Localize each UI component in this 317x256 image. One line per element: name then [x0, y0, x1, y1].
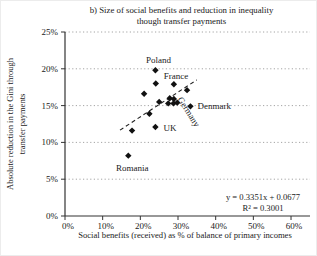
y-axis-title: Absolute reduction in the Gini through t… — [4, 28, 30, 220]
chart-title-line1: b) Size of social benefits and reduction… — [49, 5, 314, 16]
data-point — [146, 110, 152, 116]
y-tick-label: 25% — [42, 27, 59, 37]
r-squared-label: R² = 0.3001 — [209, 203, 317, 214]
data-point — [153, 80, 159, 86]
chart-title: b) Size of social benefits and reduction… — [49, 5, 314, 27]
data-point — [141, 91, 147, 97]
y-axis-title-line1: Absolute reduction in the Gini through — [4, 28, 16, 220]
y-tick-label: 0% — [46, 211, 59, 221]
country-label: UK — [163, 123, 176, 133]
y-tick-label: 10% — [42, 137, 59, 147]
country-label: France — [164, 71, 189, 81]
trendline-annotation: y = 0.3351x + 0.0677 R² = 0.3001 — [209, 192, 317, 214]
y-axis-title-line2: transfer payments — [16, 28, 28, 220]
chart-figure: 0%5%10%15%20%25%0%10%20%30%40%50%60%Pola… — [0, 0, 317, 256]
country-label: Germany — [176, 95, 202, 129]
x-axis-title: Social benefits (received) as % of balan… — [59, 230, 311, 240]
y-tick-label: 15% — [42, 101, 59, 111]
data-point — [129, 127, 135, 133]
data-point — [156, 99, 162, 105]
data-point — [171, 81, 177, 87]
trendline-equation: y = 0.3351x + 0.0677 — [209, 192, 317, 203]
data-point — [152, 124, 158, 130]
scatter-plot: 0%5%10%15%20%25%0%10%20%30%40%50%60%Pola… — [1, 1, 317, 256]
chart-title-line2: though transfer payments — [49, 16, 314, 27]
data-point — [125, 152, 131, 158]
y-tick-label: 5% — [46, 174, 59, 184]
country-label: Denmark — [197, 101, 231, 111]
y-tick-label: 20% — [42, 64, 59, 74]
country-label: Romania — [116, 163, 149, 173]
data-point — [152, 67, 158, 73]
country-label: Poland — [146, 55, 172, 65]
